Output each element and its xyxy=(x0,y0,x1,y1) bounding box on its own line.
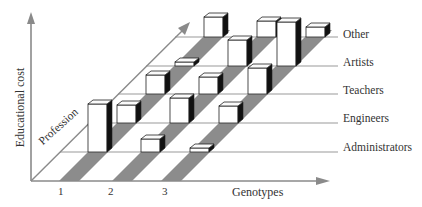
bar xyxy=(199,73,223,94)
row-label-artists: Artists xyxy=(343,56,374,68)
bar xyxy=(219,102,243,123)
row-label-engineers: Engineers xyxy=(343,112,389,124)
bar xyxy=(141,135,165,152)
bar xyxy=(170,94,194,123)
bar xyxy=(228,36,252,66)
row-label-other: Other xyxy=(343,28,369,40)
row-label-teachers: Teachers xyxy=(343,84,384,96)
x-axis-arrow-icon xyxy=(316,177,330,185)
bar xyxy=(277,18,301,66)
y-axis-arrow-icon xyxy=(27,12,35,24)
x-tick-2: 2 xyxy=(108,185,114,197)
bar xyxy=(88,100,112,152)
bar xyxy=(190,144,214,152)
row-label-administrators: Administrators xyxy=(343,141,412,153)
bar xyxy=(117,101,141,123)
bar xyxy=(306,23,330,37)
x-axis-label: Genotypes xyxy=(232,185,283,200)
bar xyxy=(146,71,170,94)
x-tick-1: 1 xyxy=(58,185,64,197)
bar xyxy=(175,58,199,66)
y-axis-label: Educational cost xyxy=(13,58,28,158)
bar xyxy=(204,13,228,37)
bar xyxy=(248,64,272,94)
x-tick-3: 3 xyxy=(162,185,168,197)
